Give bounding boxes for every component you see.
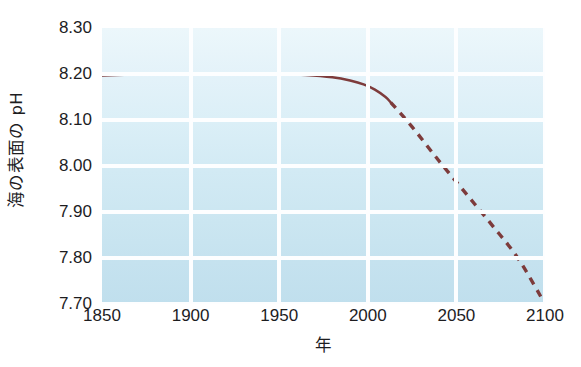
horizontal-gridline bbox=[102, 302, 545, 304]
x-axis-tick-1850: 1850 bbox=[83, 306, 121, 326]
y-axis-tick-8.00: 8.00 bbox=[59, 156, 92, 176]
x-axis-tick-labels: 185019001950200020502100 bbox=[102, 306, 545, 330]
horizontal-gridline bbox=[102, 256, 545, 260]
y-axis-tick-8.30: 8.30 bbox=[59, 18, 92, 38]
plot-area bbox=[102, 28, 545, 304]
x-axis-tick-1950: 1950 bbox=[260, 306, 298, 326]
horizontal-gridline bbox=[102, 210, 545, 214]
x-axis-tick-2100: 2100 bbox=[526, 306, 564, 326]
y-axis-tick-7.80: 7.80 bbox=[59, 248, 92, 268]
horizontal-gridline bbox=[102, 118, 545, 122]
series-observed bbox=[102, 73, 391, 102]
horizontal-gridline bbox=[102, 164, 545, 168]
y-axis-tick-7.90: 7.90 bbox=[59, 202, 92, 222]
series-projected bbox=[391, 103, 545, 304]
horizontal-gridline bbox=[102, 72, 545, 76]
y-axis-tick-labels: 8.308.208.108.007.907.807.70 bbox=[34, 0, 96, 310]
x-axis-tick-2000: 2000 bbox=[349, 306, 387, 326]
x-axis-tick-1900: 1900 bbox=[172, 306, 210, 326]
x-axis-label: 年 bbox=[102, 332, 545, 356]
y-axis-label: 海の表面の pH bbox=[0, 0, 30, 300]
y-axis-tick-8.20: 8.20 bbox=[59, 64, 92, 84]
y-axis-tick-8.10: 8.10 bbox=[59, 110, 92, 130]
y-axis-label-text: 海の表面の pH bbox=[3, 92, 27, 208]
chart-figure: 海の表面の pH 8.308.208.108.007.907.807.70 18… bbox=[0, 0, 581, 367]
x-axis-tick-2050: 2050 bbox=[437, 306, 475, 326]
